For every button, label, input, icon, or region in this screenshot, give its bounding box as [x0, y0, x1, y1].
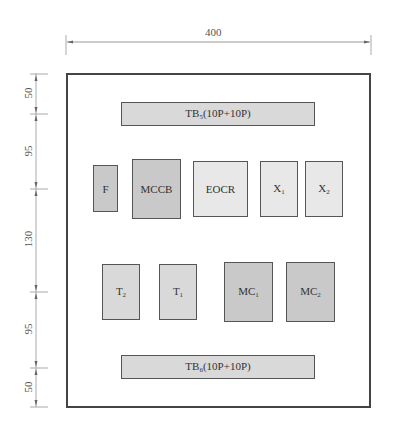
width-dimension-label: 400	[205, 26, 222, 38]
contactor-mc1: MC1	[224, 262, 273, 322]
relay-eocr: EOCR	[193, 161, 248, 217]
terminal-block-tb6: TB6(10P+10P)	[121, 355, 315, 379]
height-dimension-label-5: 50	[22, 372, 34, 402]
height-dimension-label-2: 95	[22, 136, 34, 166]
tb5-label: TB5(10P+10P)	[185, 107, 250, 121]
tb6-label: TB6(10P+10P)	[185, 360, 250, 374]
relay-x1: X1	[260, 161, 298, 217]
fuse-f: F	[93, 165, 118, 212]
height-dimension-label-1: 50	[22, 78, 34, 108]
height-dimension-label-4: 95	[22, 314, 34, 344]
relay-x2: X2	[305, 161, 343, 217]
breaker-mccb: MCCB	[132, 159, 181, 219]
terminal-block-tb5: TB5(10P+10P)	[121, 102, 315, 126]
timer-t1: T1	[159, 264, 197, 320]
height-dimension-label-3: 130	[22, 224, 34, 254]
timer-t2: T2	[102, 264, 140, 320]
contactor-mc2: MC2	[286, 262, 335, 322]
